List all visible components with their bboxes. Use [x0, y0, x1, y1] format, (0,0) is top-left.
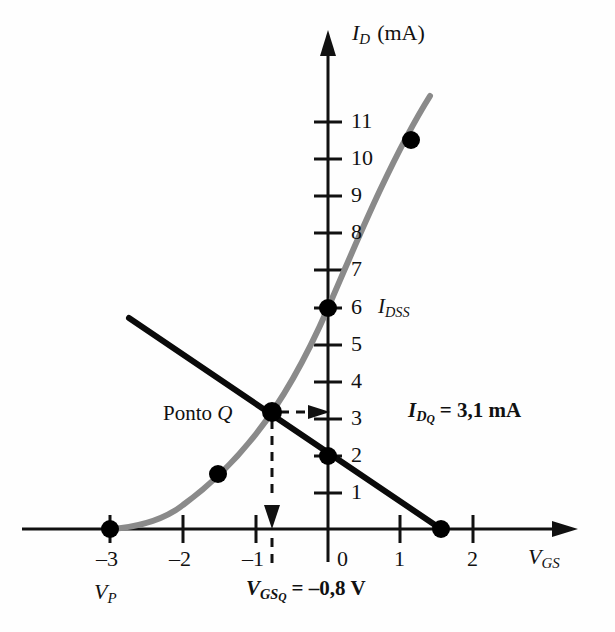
marker-curve-upper [402, 131, 420, 149]
x-tick-label-2: 2 [467, 548, 478, 570]
x-axis-title: VGS [528, 546, 560, 571]
y-axis-unit: (mA) [377, 20, 425, 45]
idq-subscript-2: Q [427, 413, 435, 425]
vgsq-subscript: GS [260, 586, 278, 602]
y-tick-label-11: 11 [351, 110, 372, 132]
marker-vp [101, 520, 119, 538]
y-tick-label-10: 10 [351, 147, 373, 169]
vgsq-subscript-2: Q [278, 591, 286, 603]
y-axis-title: ID(mA) [352, 22, 425, 47]
vgsq-symbol: V [246, 576, 260, 600]
vgsq-value: = –0,8 V [292, 576, 366, 600]
vp-annotation: VP [94, 581, 117, 606]
y-axis-subscript: D [359, 31, 370, 47]
vp-subscript: P [107, 590, 116, 606]
marker-idss [319, 299, 337, 317]
y-tick-label-6: 6 [351, 296, 362, 318]
y-tick-label-9: 9 [351, 184, 362, 206]
marker-loadline-intercept-y [319, 447, 337, 465]
y-tick-label-2: 2 [351, 444, 362, 466]
idss-annotation: IDSS [378, 296, 410, 319]
y-tick-label-5: 5 [351, 333, 362, 355]
x-tick-label-minus3: –3 [96, 548, 118, 570]
y-tick-label-1: 1 [351, 481, 362, 503]
x-tick-label-minus2: –2 [169, 548, 191, 570]
marker-curve-mid [209, 465, 227, 483]
idq-value: = 3,1 mA [440, 398, 521, 422]
y-tick-label-8: 8 [351, 221, 362, 243]
q-point-label-symbol: Q [217, 401, 232, 425]
q-point-label: Ponto Q [163, 403, 232, 424]
marker-loadline-intercept-x [432, 520, 450, 538]
y-tick-label-3: 3 [351, 407, 362, 429]
figure-container: ID(mA) VGS 11 10 9 8 7 6 5 4 3 2 1 –3 –2… [0, 0, 615, 632]
idss-symbol: I [378, 294, 385, 318]
idq-annotation: IDQ= 3,1 mA [408, 400, 521, 425]
y-tick-label-7: 7 [351, 258, 362, 280]
q-point-label-prefix: Ponto [163, 401, 217, 425]
x-tick-label-1: 1 [394, 548, 405, 570]
idss-subscript: DSS [385, 304, 410, 320]
x-axis-subscript: GS [541, 555, 559, 571]
y-tick-label-4: 4 [351, 370, 362, 392]
x-tick-label-0: 0 [337, 548, 348, 570]
idq-symbol: I [408, 398, 416, 422]
vp-symbol: V [94, 579, 107, 604]
vgsq-annotation: VGSQ= –0,8 V [246, 578, 366, 603]
jfet-transfer-characteristic-plot [0, 0, 615, 632]
x-tick-label-minus1: –1 [242, 548, 264, 570]
idq-subscript: D [416, 408, 426, 424]
x-axis-symbol: V [528, 544, 541, 569]
marker-q-point [262, 402, 282, 422]
